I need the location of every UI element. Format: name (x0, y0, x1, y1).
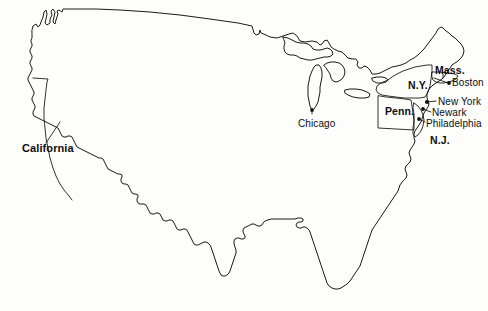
lake-erie-outline (345, 89, 370, 98)
national-outline-path (28, 9, 464, 289)
state-label-california: California (22, 143, 74, 154)
city-label-boston: Boston (452, 78, 484, 88)
lake-michigan-outline (308, 65, 322, 110)
city-label-chicago: Chicago (298, 119, 335, 129)
state-label-pennsylvania: Penn. (385, 106, 414, 117)
lake-ontario-outline (372, 77, 388, 83)
city-label-new-york: New York (438, 97, 481, 107)
california-state-boundary (33, 78, 72, 200)
state-label-new-jersey: N.J. (430, 135, 450, 146)
city-label-newark: Newark (432, 108, 467, 118)
us-map-figure: California Penn. N.Y. Mass. N.J. Chicago… (0, 0, 488, 311)
city-label-philadelphia: Philadelphia (426, 119, 482, 129)
boston-city-dot (447, 81, 451, 85)
newark-city-dot (421, 107, 425, 111)
new-york-city-dot (425, 100, 429, 104)
state-label-massachusetts: Mass. (435, 65, 465, 76)
map-vector-canvas (0, 0, 488, 311)
lake-huron-outline (324, 62, 345, 82)
chicago-city-dot (310, 108, 314, 112)
state-label-new-york: N.Y. (408, 80, 428, 91)
philadelphia-city-dot (417, 117, 421, 121)
